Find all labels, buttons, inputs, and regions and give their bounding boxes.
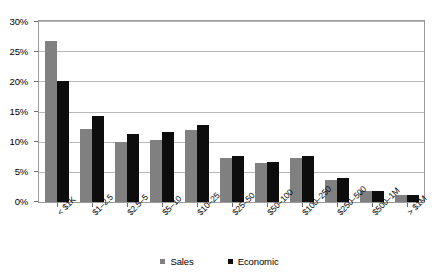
bar-group	[144, 21, 179, 202]
bar-group	[109, 21, 144, 202]
bar-economic[interactable]	[232, 156, 244, 202]
legend-swatch-economic-icon	[228, 259, 233, 264]
bar-sales[interactable]	[185, 130, 197, 202]
y-axis-tick-mark	[34, 21, 38, 22]
legend-item-sales[interactable]: Sales	[160, 256, 193, 267]
legend-label-sales: Sales	[170, 256, 193, 267]
bar-group	[354, 21, 389, 202]
bar-group	[284, 21, 319, 202]
y-axis-tick-label: 0%	[15, 196, 28, 207]
y-axis-tick-mark	[34, 51, 38, 52]
bar-economic[interactable]	[162, 132, 174, 202]
bar-chart: 0%5%10%15%20%25%30% < $1K$1–2.5$2.5–5$5–…	[0, 0, 439, 276]
x-axis: < $1K$1–2.5$2.5–5$5–10$10–25$25–50$50–10…	[39, 203, 424, 251]
bars-layer	[39, 21, 424, 202]
y-axis-tick-label: 20%	[10, 76, 28, 87]
y-axis-tick-label: 10%	[10, 136, 28, 147]
y-axis-tick-mark	[34, 171, 38, 172]
bar-group	[249, 21, 284, 202]
y-axis-tick-mark	[34, 111, 38, 112]
bar-group	[39, 21, 74, 202]
y-axis-tick-label: 5%	[15, 166, 28, 177]
bar-economic[interactable]	[197, 125, 209, 202]
bar-economic[interactable]	[92, 116, 104, 202]
bar-group	[214, 21, 249, 202]
y-axis-tick-mark	[34, 141, 38, 142]
bar-economic[interactable]	[267, 162, 279, 202]
bar-group	[74, 21, 109, 202]
legend-swatch-sales-icon	[160, 259, 165, 264]
chart-legend: Sales Economic	[0, 256, 439, 267]
y-axis-tick-mark	[34, 81, 38, 82]
bar-sales[interactable]	[150, 140, 162, 202]
bar-economic[interactable]	[302, 156, 314, 202]
bar-economic[interactable]	[57, 81, 69, 202]
bar-sales[interactable]	[115, 142, 127, 202]
bar-sales[interactable]	[220, 158, 232, 202]
bar-sales[interactable]	[80, 129, 92, 202]
bar-group	[319, 21, 354, 202]
y-axis-tick-mark	[34, 201, 38, 202]
bar-sales[interactable]	[45, 41, 57, 202]
y-axis-tick-label: 30%	[10, 16, 28, 27]
y-axis-tick-label: 15%	[10, 106, 28, 117]
y-axis: 0%5%10%15%20%25%30%	[0, 0, 34, 276]
bar-group	[389, 21, 424, 202]
bar-group	[179, 21, 214, 202]
y-axis-tick-label: 25%	[10, 46, 28, 57]
bar-economic[interactable]	[127, 134, 139, 202]
legend-label-economic: Economic	[238, 256, 279, 267]
legend-item-economic[interactable]: Economic	[228, 256, 279, 267]
